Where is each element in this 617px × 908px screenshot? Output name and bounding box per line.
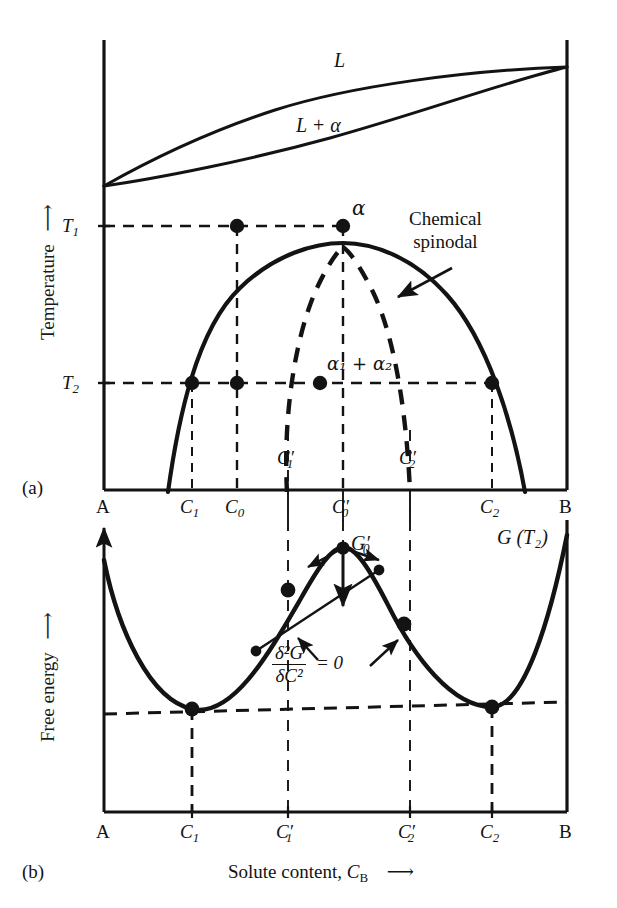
x-tick-a-B: B — [559, 497, 572, 516]
second-derivative-fraction: δ²G δC² — [272, 643, 306, 686]
y-tick-T2: T2 — [62, 373, 79, 396]
inter-panel-guides — [288, 430, 410, 528]
panel-a-y-axis-title: Temperature ⟶ — [36, 205, 59, 340]
fraction-denominator: δC² — [272, 665, 306, 686]
marker-C0-T2 — [230, 376, 244, 390]
panel-b-y-axis-arrow: ⟶ — [37, 613, 58, 639]
x-tick-b-C1-prime: C′1 — [276, 822, 292, 845]
x-tick-a-C1: C1 — [180, 497, 199, 520]
panel-b-x-axis-title: Solute content, CB ⟶ — [228, 862, 413, 885]
chemical-spinodal-line2: spinodal — [409, 230, 482, 253]
figure-svg — [0, 0, 617, 908]
x-tick-b-C2: C2 — [480, 822, 499, 845]
figure-container: Temperature ⟶ (a) T1 T2 A C1 C0 C′1 C′0 … — [0, 0, 617, 908]
g0-prime-label: G′0 — [351, 533, 370, 556]
x-tick-b-C1: C1 — [180, 822, 199, 845]
x-tick-a-C1-prime: C′1 — [277, 448, 293, 471]
marker-b-C2p-inflection — [397, 617, 412, 632]
fraction-equals: = 0 — [316, 652, 343, 673]
y-tick-T1: T1 — [62, 216, 79, 239]
second-derivative-zero-label: δ²G δC² = 0 — [272, 643, 343, 686]
x-tick-a-C2-prime: C′2 — [399, 448, 415, 471]
marker-C1-T2 — [185, 376, 199, 390]
region-label-alpha1-plus-alpha2: α₁ + α₂ — [327, 355, 392, 373]
free-energy-curve-label: G (T₂) — [497, 527, 548, 547]
region-label-alpha: α — [352, 198, 366, 218]
marker-C2-T2 — [485, 376, 499, 390]
x-tick-a-A: A — [96, 497, 110, 516]
chemical-spinodal-line1: Chemical — [409, 207, 482, 230]
x-tick-a-C0-prime: C′0 — [332, 497, 348, 520]
fraction-numerator: δ²G — [272, 643, 306, 665]
marker-b-right-chord — [374, 565, 385, 576]
panel-b-decomposition-chords — [256, 548, 379, 651]
marker-b-C2-min — [485, 700, 500, 715]
x-tick-b-C2-prime: C′2 — [398, 822, 414, 845]
marker-C0p-T1 — [336, 219, 350, 233]
x-tick-b-B: B — [559, 822, 572, 841]
panel-a-tag: (a) — [22, 478, 43, 497]
x-tick-b-A: A — [96, 822, 110, 841]
panel-a-guide-lines — [104, 226, 497, 490]
marker-b-C0p-max — [336, 541, 349, 554]
marker-b-C1p-inflection — [281, 583, 296, 598]
marker-mid-T2 — [313, 376, 327, 390]
x-tick-a-C2: C2 — [480, 497, 499, 520]
region-label-liquid: L — [334, 50, 345, 70]
panel-b-tag: (b) — [22, 862, 44, 881]
panel-b-x-axis-arrow: ⟶ — [387, 861, 413, 882]
region-label-liquid-plus-alpha: L + α — [296, 115, 341, 135]
panel-b-y-axis-title: Free energy ⟶ — [36, 613, 59, 742]
panel-a-y-axis-arrow: ⟶ — [37, 205, 58, 231]
chemical-spinodal-annotation: Chemical spinodal — [409, 207, 482, 253]
marker-C0-T1 — [230, 219, 244, 233]
panel-a-axes — [98, 40, 567, 490]
x-tick-a-C0: C0 — [225, 497, 244, 520]
marker-b-C1-min — [185, 702, 200, 717]
marker-b-left-chord — [251, 646, 262, 657]
